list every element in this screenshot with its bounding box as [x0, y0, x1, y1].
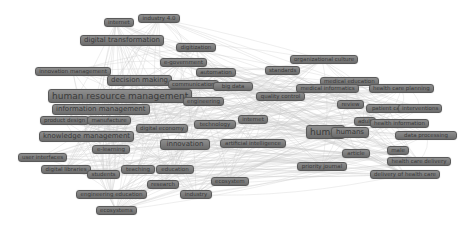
- node-innovation-management[interactable]: innovation management: [35, 67, 111, 76]
- edge: [116, 41, 126, 211]
- node-communication[interactable]: communication: [168, 80, 219, 89]
- node-research[interactable]: research: [147, 180, 179, 189]
- node-data-processing[interactable]: data processing: [395, 131, 457, 140]
- node-male[interactable]: male: [387, 146, 409, 155]
- edge: [159, 19, 322, 60]
- node-information-management[interactable]: information management: [52, 104, 150, 115]
- node-article[interactable]: article: [342, 149, 370, 158]
- network-diagram: internetindustry 4.0digital transformati…: [0, 0, 475, 225]
- node-education[interactable]: education: [156, 165, 194, 174]
- node-user-interfaces[interactable]: user interfaces: [18, 153, 67, 162]
- node-standards[interactable]: standards: [265, 66, 300, 75]
- node-ecosystems[interactable]: ecosystems: [96, 206, 137, 215]
- node-organizational-culture[interactable]: organizational culture: [290, 55, 358, 64]
- node-priority-journal[interactable]: priority journal: [297, 162, 347, 171]
- node-quality-control[interactable]: quality control: [256, 92, 305, 101]
- node-manufacture[interactable]: manufacture: [87, 116, 131, 125]
- node-product-design[interactable]: product design: [40, 116, 89, 125]
- node-technology[interactable]: technology: [194, 120, 236, 129]
- node-innovation[interactable]: innovation: [160, 139, 210, 150]
- node-industry[interactable]: industry: [180, 190, 212, 199]
- node-decision-making[interactable]: decision making: [107, 75, 172, 86]
- node-digital-libraries[interactable]: digital libraries: [41, 165, 91, 174]
- node-digitization[interactable]: digitization: [176, 43, 216, 52]
- node-digital-economy[interactable]: digital economy: [136, 124, 188, 133]
- node-teaching[interactable]: teaching: [121, 165, 155, 174]
- node-digital-transformation[interactable]: digital transformation: [80, 35, 164, 46]
- node-knowledge-management[interactable]: knowledge management: [39, 131, 134, 142]
- node-health-care-delivery[interactable]: health care delivery: [387, 157, 451, 166]
- node-automation[interactable]: automation: [196, 68, 236, 77]
- node-e-learning[interactable]: e-learning: [92, 145, 130, 154]
- node-human-resource-management[interactable]: human resource management: [48, 89, 192, 103]
- node-delivery-of-health-care[interactable]: delivery of health care: [370, 170, 440, 179]
- node-industry-4[interactable]: industry 4.0: [138, 14, 180, 23]
- node-humans[interactable]: humans: [331, 127, 369, 138]
- node-e-learning-top[interactable]: e-government: [160, 58, 207, 67]
- node-blockchain[interactable]: big data: [213, 82, 253, 91]
- node-students[interactable]: students: [87, 170, 120, 179]
- node-ecosystem[interactable]: ecosystem: [211, 177, 249, 186]
- node-health-care-planning[interactable]: health care planning: [369, 84, 434, 93]
- node-review[interactable]: review: [337, 100, 364, 109]
- node-engineering-education[interactable]: engineering education: [76, 190, 147, 199]
- node-interventions[interactable]: interventions: [398, 104, 442, 113]
- node-health-information[interactable]: health information: [370, 119, 429, 128]
- node-medical-informatics[interactable]: medical informatics: [296, 84, 359, 93]
- node-internet-top[interactable]: internet: [104, 18, 134, 27]
- node-artificial-intelligence[interactable]: artificial intelligence: [220, 139, 286, 148]
- node-internet[interactable]: internet: [238, 115, 268, 124]
- node-engineering-top[interactable]: engineering: [183, 97, 224, 106]
